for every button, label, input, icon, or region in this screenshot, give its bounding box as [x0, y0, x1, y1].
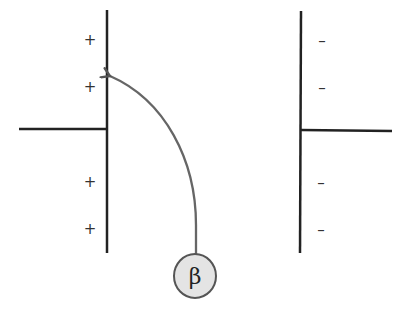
negative-plate-line	[300, 11, 301, 253]
beta-trajectory-arrow	[110, 76, 196, 254]
minus-sign: –	[318, 79, 326, 97]
beta-label: β	[189, 264, 202, 289]
plus-sign: +	[84, 78, 97, 96]
diagram-canvas: + + + + – – – – β	[0, 0, 401, 323]
plus-sign: +	[84, 220, 97, 238]
negative-charge-signs: – – – –	[317, 32, 326, 239]
beta-particle: β	[174, 254, 216, 298]
negative-plate	[300, 11, 392, 253]
positive-charge-signs: + + + +	[84, 31, 97, 238]
negative-plate-wire	[301, 130, 392, 131]
plus-sign: +	[84, 173, 97, 191]
plus-sign: +	[84, 31, 97, 49]
minus-sign: –	[317, 174, 325, 192]
minus-sign: –	[317, 221, 325, 239]
minus-sign: –	[318, 32, 326, 50]
